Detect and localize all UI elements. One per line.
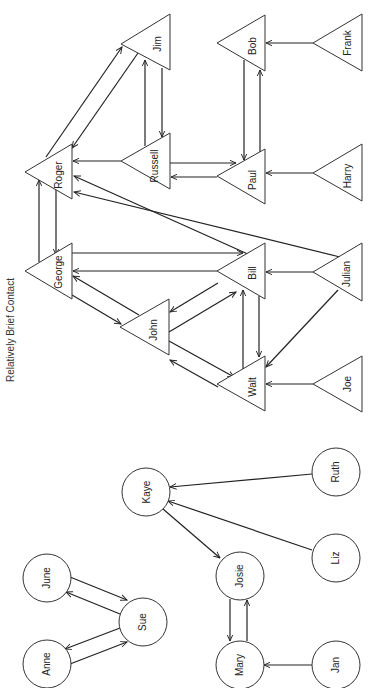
node-josie[interactable]: Josie	[216, 552, 264, 600]
node-label-paul: Paul	[247, 170, 258, 190]
diagram-caption: Relatively Brief Contact	[5, 278, 16, 382]
node-label-josie: Josie	[234, 564, 245, 588]
node-label-julian: Julian	[341, 261, 352, 287]
node-kaye[interactable]: Kaye	[122, 468, 170, 516]
node-label-roger: Roger	[53, 161, 64, 189]
node-john[interactable]: John	[120, 299, 169, 355]
node-label-ruth: Ruth	[330, 461, 341, 482]
edges-female	[65, 474, 312, 665]
node-label-george: George	[53, 255, 64, 289]
node-label-jim: Jim	[152, 36, 163, 52]
node-label-sue: Sue	[137, 613, 148, 631]
node-label-bob: Bob	[247, 37, 258, 55]
node-label-june: June	[41, 567, 52, 589]
social-network-diagram: Relatively Brief Contact	[0, 0, 380, 688]
edge-john-walt	[169, 341, 234, 377]
node-label-bill: Bill	[247, 266, 258, 279]
node-label-harry: Harry	[342, 164, 353, 188]
edge-bill-roger	[74, 176, 250, 255]
node-bob[interactable]: Bob	[217, 15, 265, 71]
edge-anne-sue	[70, 642, 127, 664]
node-harry[interactable]: Harry	[313, 144, 362, 201]
node-joe[interactable]: Joe	[313, 356, 362, 412]
node-sue[interactable]: Sue	[119, 598, 167, 646]
edge-ruth-kaye	[170, 474, 312, 487]
node-liz[interactable]: Liz	[312, 534, 360, 582]
node-frank[interactable]: Frank	[313, 14, 362, 71]
edge-roger-jim	[46, 47, 122, 157]
edge-liz-kaye	[168, 501, 312, 550]
node-label-frank: Frank	[342, 29, 353, 56]
node-anne[interactable]: Anne	[23, 640, 71, 688]
node-label-jan: Jan	[330, 657, 341, 673]
node-george[interactable]: George	[25, 243, 72, 299]
edge-jim-roger	[72, 53, 138, 148]
edge-sue-anne	[65, 628, 120, 649]
edge-john-bill	[169, 292, 236, 332]
node-mary[interactable]: Mary	[216, 641, 264, 688]
node-ruth[interactable]: Ruth	[312, 448, 360, 496]
node-label-walt: Walt	[247, 377, 258, 397]
edge-julian-roger	[74, 192, 340, 257]
node-june[interactable]: June	[23, 554, 71, 602]
node-label-john: John	[148, 319, 159, 341]
node-jan[interactable]: Jan	[312, 641, 360, 688]
edge-julian-walt	[266, 290, 338, 367]
edge-sue-june	[66, 592, 120, 614]
male-nodes: Jim Russell Roger Bob Frank Paul Harry	[25, 14, 362, 412]
female-nodes: Kaye June Sue Anne Josie Mary Ruth Liz	[23, 448, 360, 688]
node-roger[interactable]: Roger	[25, 144, 72, 199]
edge-john-george	[73, 276, 139, 315]
edges-male	[39, 43, 340, 387]
node-walt[interactable]: Walt	[217, 356, 265, 411]
node-label-anne: Anne	[41, 652, 52, 676]
node-label-russell: Russell	[149, 150, 160, 183]
node-label-liz: Liz	[330, 552, 341, 565]
node-label-joe: Joe	[342, 376, 353, 393]
node-label-mary: Mary	[234, 654, 245, 676]
node-label-kaye: Kaye	[141, 480, 152, 503]
node-paul[interactable]: Paul	[217, 149, 265, 204]
